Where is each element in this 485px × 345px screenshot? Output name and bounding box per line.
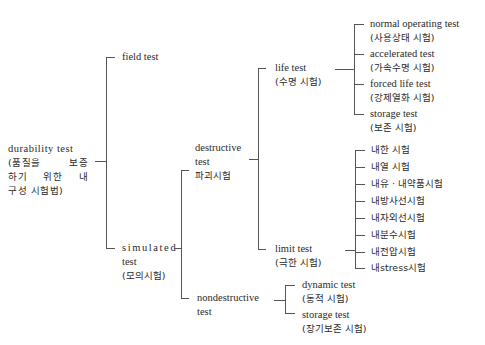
node-stress-resistance-test: 내stress시험 (371, 261, 426, 275)
node-simulated-test: simulated test (모의시험) (122, 241, 177, 283)
connector (285, 313, 295, 314)
connector (355, 252, 365, 253)
node-destructive-test: destructive test 파괴시험 (195, 141, 241, 183)
connector (355, 167, 365, 168)
node-forced-life-test: forced life test (강제열화 시험) (370, 77, 434, 105)
connector (274, 300, 285, 301)
node-cold-resistance-test: 내한 시험 (371, 143, 410, 157)
connector (355, 184, 365, 185)
connector (174, 248, 181, 249)
connector (355, 235, 365, 236)
root-desc-line2: 하기위한내 (8, 170, 88, 184)
connector (354, 24, 355, 115)
node-limit-test: limit test (극한 시험) (275, 242, 321, 270)
connector (354, 54, 364, 55)
node-nondestructive-test: nondestructive test (197, 291, 259, 319)
connector (181, 298, 189, 299)
node-long-term-storage-test: storage test (장기보존 시험) (302, 308, 366, 336)
connector (258, 68, 259, 250)
node-oil-chemical-resistance-test: 내유 · 내약품시험 (371, 177, 443, 191)
connector (354, 24, 364, 25)
connector (181, 170, 189, 171)
connector (355, 268, 365, 269)
connector (335, 69, 344, 70)
connector (354, 114, 364, 115)
node-dynamic-test: dynamic test (동적 시험) (302, 278, 355, 306)
node-voltage-resistance-test: 내전압시험 (371, 245, 416, 259)
connector (106, 57, 107, 249)
node-radiation-resistance-test: 내방사선시험 (371, 194, 425, 208)
connector (345, 250, 355, 251)
connector (344, 69, 354, 70)
root-desc-line3: 구성 시험법) (8, 184, 88, 198)
node-accelerated-test: accelerated test (가속수명 시험) (370, 47, 434, 75)
connector (249, 159, 258, 160)
node-storage-test: storage test (보존 시험) (370, 107, 418, 135)
connector (258, 249, 266, 250)
durability-test-tree-diagram: durability test (품질을보증 하기위한내 구성 시험법) fie… (0, 0, 485, 345)
connector (355, 201, 365, 202)
connector (95, 161, 106, 162)
connector (285, 285, 295, 286)
connector (258, 68, 266, 69)
node-uv-resistance-test: 내자외선시험 (371, 211, 425, 225)
node-water-spray-resistance-test: 내분수시험 (371, 228, 416, 242)
connector (355, 150, 365, 151)
connector (285, 285, 286, 314)
node-normal-operating-test: normal operating test (사용상태 시험) (370, 17, 459, 45)
node-field-test: field test (122, 50, 158, 64)
root-title: durability test (8, 142, 88, 156)
node-life-test: life test (수명 시험) (275, 61, 321, 89)
root-desc-line1: (품질을보증 (8, 156, 88, 170)
connector (355, 218, 365, 219)
connector (354, 84, 364, 85)
node-heat-resistance-test: 내열 시험 (371, 160, 410, 174)
connector (181, 170, 182, 299)
connector (106, 57, 115, 58)
connector (106, 248, 115, 249)
node-durability-test: durability test (품질을보증 하기위한내 구성 시험법) (8, 142, 88, 198)
